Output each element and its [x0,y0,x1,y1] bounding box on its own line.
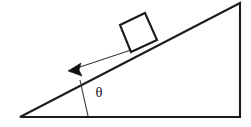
physics-diagram-canvas: θ [0,0,251,127]
sliding-block [120,13,157,52]
angle-reference-line [80,80,88,116]
motion-arrow-head-icon [68,63,82,76]
motion-arrow-shaft [77,50,131,68]
angle-theta-label: θ [96,84,103,100]
inclined-plane-diagram: θ [0,0,251,127]
